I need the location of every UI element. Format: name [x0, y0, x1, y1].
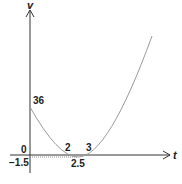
intercept-label: 36 — [33, 95, 45, 106]
vertex-v-label: −1.5 — [9, 157, 29, 168]
root-2-label: 2 — [65, 142, 71, 153]
vertex-t-label: 2.5 — [71, 158, 85, 169]
origin-label: 0 — [21, 144, 27, 155]
root-3-label: 3 — [86, 142, 92, 153]
t-axis-label: t — [173, 149, 178, 161]
velocity-curve — [30, 36, 152, 157]
velocity-time-graph: v t 36 0 −1.5 2 3 2.5 — [0, 0, 182, 184]
v-axis-label: v — [27, 0, 34, 11]
